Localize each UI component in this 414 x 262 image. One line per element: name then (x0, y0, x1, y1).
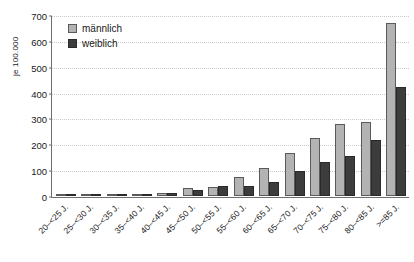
y-tick-mark (49, 16, 52, 17)
bar-group (333, 16, 358, 196)
bar-group (383, 16, 408, 196)
y-tick-mark (49, 119, 52, 120)
y-tick-mark (49, 171, 52, 172)
y-tick-label: 300 (31, 114, 47, 125)
legend-label-maennlich: männlich (82, 23, 122, 34)
bar-group (282, 16, 307, 196)
chart-legend: männlich weiblich (68, 23, 122, 49)
bar-chart: je 100.000 0100200300400500600700 20–<25… (0, 0, 414, 262)
y-tick-mark (49, 197, 52, 198)
bar-group (307, 16, 332, 196)
y-tick-mark (49, 93, 52, 94)
legend-item-weiblich[interactable]: weiblich (68, 38, 122, 49)
x-label-cell: >=85 J. (384, 200, 410, 262)
legend-swatch-female-icon (68, 39, 77, 48)
y-tick-mark (49, 41, 52, 42)
bar-group (206, 16, 231, 196)
bar-male[interactable] (386, 23, 396, 196)
bar-group (129, 16, 154, 196)
y-tick-mark (49, 67, 52, 68)
bar-group (155, 16, 180, 196)
y-tick-label: 600 (31, 36, 47, 47)
bar-group (180, 16, 205, 196)
legend-item-maennlich[interactable]: männlich (68, 23, 122, 34)
x-label-cell: 80–<85 J. (358, 200, 384, 262)
y-tick-label: 500 (31, 62, 47, 73)
bar-group (231, 16, 256, 196)
bar-group (256, 16, 281, 196)
bar-female[interactable] (371, 140, 381, 196)
bar-male[interactable] (56, 194, 66, 196)
y-tick-label: 200 (31, 140, 47, 151)
y-tick-mark (49, 145, 52, 146)
y-tick-label: 400 (31, 88, 47, 99)
y-tick-label: 100 (31, 166, 47, 177)
y-tick-label: 700 (31, 11, 47, 22)
legend-swatch-male-icon (68, 24, 77, 33)
y-tick-label: 0 (42, 192, 47, 203)
bar-group (358, 16, 383, 196)
x-axis-labels: 20–<25 J.25–<30 J.30–<35 J.35–<40 J.40–<… (52, 200, 409, 262)
legend-label-weiblich: weiblich (82, 38, 118, 49)
